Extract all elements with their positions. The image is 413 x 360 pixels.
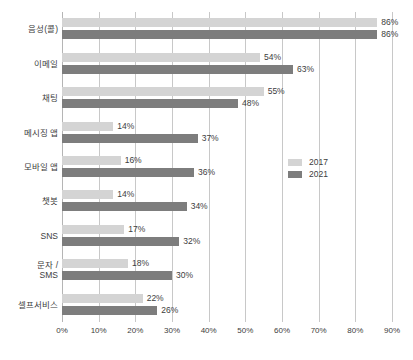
bar-group-2021: 34% [62, 202, 392, 211]
category-label: 셀프서비스 [0, 292, 58, 318]
bar-value-label: 18% [128, 257, 149, 270]
bar[interactable] [62, 134, 198, 143]
legend-item-2021[interactable]: 2021 [288, 170, 328, 179]
x-tick-label: 90% [384, 326, 400, 335]
bar-group-2021: 86% [62, 30, 392, 39]
category-label: 챗봇 [0, 188, 58, 214]
category-label: 모바일 앱 [0, 154, 58, 180]
legend-swatch-icon [288, 159, 302, 166]
x-tick-label: 0% [56, 326, 68, 335]
category-label: 음성(콜) [0, 16, 58, 42]
bar-value-label: 55% [264, 85, 285, 98]
bar[interactable] [62, 271, 172, 280]
bar-group-2021: 32% [62, 237, 392, 246]
bar-group-2017: 14% [62, 122, 392, 131]
bar-group-2021: 36% [62, 168, 392, 177]
category-row: 음성(콜)86%86% [62, 16, 392, 42]
bar-chart: 음성(콜)86%86%이메일54%63%채팅55%48%메시징 앱14%37%모… [0, 0, 413, 360]
x-tick-label: 10% [91, 326, 107, 335]
bar[interactable] [62, 30, 377, 39]
bar[interactable] [62, 225, 124, 234]
bar-value-label: 32% [179, 235, 200, 248]
legend-swatch-icon [288, 171, 302, 178]
x-tick-label: 50% [237, 326, 253, 335]
bar[interactable] [62, 65, 293, 74]
bar-value-label: 17% [124, 223, 145, 236]
bar[interactable] [62, 53, 260, 62]
x-tick-label: 30% [164, 326, 180, 335]
bar-group-2017: 18% [62, 259, 392, 268]
bar-value-label: 34% [187, 200, 208, 213]
gridline-90pct [392, 12, 393, 322]
bar[interactable] [62, 294, 143, 303]
bar-group-2017: 86% [62, 18, 392, 27]
bar-group-2021: 63% [62, 65, 392, 74]
bar-group-2021: 48% [62, 99, 392, 108]
bar-value-label: 54% [260, 51, 281, 64]
category-row: 메시징 앱14%37% [62, 120, 392, 146]
x-tick-label: 80% [347, 326, 363, 335]
category-row: 문자 / SMS18%30% [62, 257, 392, 283]
category-row: 챗봇14%34% [62, 188, 392, 214]
bar-group-2017: 55% [62, 87, 392, 96]
x-axis: 0%10%20%30%40%50%60%70%80%90% [62, 326, 392, 344]
legend-label: 2021 [309, 170, 328, 179]
category-label: 채팅 [0, 85, 58, 111]
bar-value-label: 30% [172, 269, 193, 282]
bar[interactable] [62, 18, 377, 27]
category-label: 메시징 앱 [0, 120, 58, 146]
x-tick-label: 20% [127, 326, 143, 335]
chart-legend: 20172021 [288, 158, 328, 179]
category-label: 문자 / SMS [0, 257, 58, 283]
category-row: 채팅55%48% [62, 85, 392, 111]
bar-group-2017: 14% [62, 190, 392, 199]
category-row: SNS17%32% [62, 223, 392, 249]
bar[interactable] [62, 87, 264, 96]
category-row: 이메일54%63% [62, 51, 392, 77]
bar-value-label: 36% [194, 166, 215, 179]
bar[interactable] [62, 99, 238, 108]
bar-group-2017: 54% [62, 53, 392, 62]
x-tick-label: 60% [274, 326, 290, 335]
bar[interactable] [62, 202, 187, 211]
bar-group-2021: 30% [62, 271, 392, 280]
legend-label: 2017 [309, 158, 328, 167]
bar-value-label: 26% [157, 304, 178, 317]
bar-value-label: 63% [293, 63, 314, 76]
bar-group-2017: 22% [62, 294, 392, 303]
legend-item-2017[interactable]: 2017 [288, 158, 328, 167]
plot-area: 음성(콜)86%86%이메일54%63%채팅55%48%메시징 앱14%37%모… [62, 12, 392, 322]
bar[interactable] [62, 306, 157, 315]
bar-group-2021: 26% [62, 306, 392, 315]
bar-value-label: 86% [377, 28, 398, 41]
bar[interactable] [62, 190, 113, 199]
category-label: SNS [0, 223, 58, 249]
bar[interactable] [62, 259, 128, 268]
bar[interactable] [62, 156, 121, 165]
category-row: 셀프서비스22%26% [62, 292, 392, 318]
category-row: 모바일 앱16%36% [62, 154, 392, 180]
x-tick-label: 70% [311, 326, 327, 335]
bar-value-label: 14% [113, 120, 134, 133]
bar-value-label: 14% [113, 188, 134, 201]
bar-group-2017: 17% [62, 225, 392, 234]
category-label: 이메일 [0, 51, 58, 77]
bar[interactable] [62, 122, 113, 131]
bar-group-2017: 16% [62, 156, 392, 165]
bar-value-label: 16% [121, 154, 142, 167]
bar-value-label: 48% [238, 97, 259, 110]
x-tick-label: 40% [201, 326, 217, 335]
bar-value-label: 37% [198, 132, 219, 145]
bar[interactable] [62, 168, 194, 177]
bar-group-2021: 37% [62, 134, 392, 143]
bar[interactable] [62, 237, 179, 246]
